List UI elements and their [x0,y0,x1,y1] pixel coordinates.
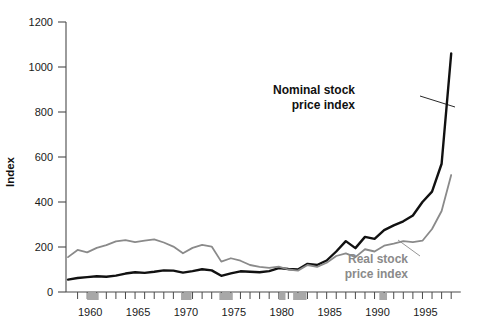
chart-background [0,0,503,331]
x-tick-label: 1970 [174,306,198,318]
recession-band [219,293,232,300]
x-tick-label: 1975 [222,306,246,318]
x-tick-label: 1995 [413,306,437,318]
y-tick-label: 0 [47,286,53,298]
chart-svg: 020040060080010001200 196019651970197519… [0,0,503,331]
x-tick-label: 1960 [78,306,102,318]
recession-band [181,293,192,300]
y-axis-title: Index [4,156,16,187]
y-tick-label: 400 [35,196,53,208]
y-tick-label: 200 [35,241,53,253]
y-tick-label: 800 [35,106,53,118]
recession-band [379,293,387,300]
x-tick-label: 1980 [270,306,294,318]
x-tick-label: 1990 [365,306,389,318]
recession-band [293,293,306,300]
x-tick-label: 1985 [317,306,341,318]
y-tick-label: 1000 [29,61,53,73]
recession-band [279,293,286,300]
y-tick-label: 600 [35,151,53,163]
x-tick-label: 1965 [126,306,150,318]
annotation-label: Real stockprice index [345,252,409,281]
stock-price-index-chart: 020040060080010001200 196019651970197519… [0,0,503,331]
y-tick-label: 1200 [29,16,53,28]
recession-band [87,293,98,300]
